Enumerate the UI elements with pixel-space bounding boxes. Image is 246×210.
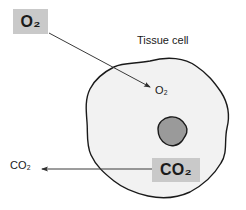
- label-co2-external: CO₂: [10, 160, 31, 171]
- label-tissue-cell: Tissue cell: [137, 35, 189, 46]
- label-o2-internal: O₂: [155, 85, 168, 96]
- gas-exchange-diagram: O₂ Tissue cell O₂ CO₂ CO₂: [0, 0, 246, 210]
- label-co2-internal: CO₂: [152, 158, 200, 182]
- label-o2-external: O₂: [13, 9, 48, 34]
- label-co2-internal-text: CO₂: [160, 162, 192, 178]
- label-o2-external-text: O₂: [20, 14, 40, 30]
